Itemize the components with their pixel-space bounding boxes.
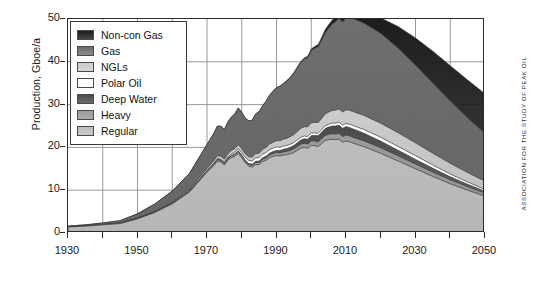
x-tick-mark [310, 232, 311, 238]
x-tick-mark [241, 232, 242, 238]
x-tick-mark [484, 232, 485, 238]
legend-item[interactable]: Heavy [77, 107, 180, 123]
y-tick-mark [60, 232, 65, 233]
x-tick-label: 1930 [44, 244, 90, 256]
y-tick-mark [60, 18, 65, 19]
legend-swatch-ngls [77, 62, 94, 72]
x-tick-mark [102, 232, 103, 238]
x-tick-mark [380, 232, 381, 238]
x-tick-mark [171, 232, 172, 238]
legend-label: Deep Water [101, 94, 157, 105]
y-tick-label: 40 [32, 55, 60, 66]
chart-legend: Non-con GasGasNGLsPolar OilDeep WaterHea… [70, 21, 187, 145]
x-tick-label: 1990 [253, 244, 299, 256]
x-tick-mark [345, 232, 346, 238]
legend-swatch-deep-water [77, 94, 94, 104]
credit-text: Association for the Study of Peak Oil [520, 39, 527, 229]
x-tick-label: 2030 [392, 244, 438, 256]
x-tick-label: 1970 [183, 244, 229, 256]
legend-label: Polar Oil [101, 78, 141, 89]
x-tick-label: 2050 [461, 244, 507, 256]
legend-label: Gas [101, 46, 120, 57]
x-tick-mark [276, 232, 277, 238]
legend-swatch-heavy [77, 110, 94, 120]
y-tick-mark [60, 146, 65, 147]
legend-label: NGLs [101, 62, 128, 73]
y-tick-label: 20 [32, 140, 60, 151]
legend-swatch-gas [77, 46, 94, 56]
x-tick-mark [449, 232, 450, 238]
x-tick-mark [415, 232, 416, 238]
x-tick-label: 2010 [322, 244, 368, 256]
y-tick-mark [60, 61, 65, 62]
legend-item[interactable]: Deep Water [77, 91, 180, 107]
legend-swatch-polar-oil [77, 78, 94, 88]
legend-item[interactable]: Gas [77, 43, 180, 59]
legend-item[interactable]: Regular [77, 123, 180, 139]
y-axis-ticks: 01020304050 [30, 0, 60, 281]
y-tick-label: 50 [32, 12, 60, 23]
legend-swatch-non-con-gas [77, 30, 94, 40]
x-tick-label: 1950 [114, 244, 160, 256]
legend-item[interactable]: NGLs [77, 59, 180, 75]
y-tick-mark [60, 189, 65, 190]
y-tick-label: 30 [32, 98, 60, 109]
x-tick-mark [137, 232, 138, 238]
y-tick-label: 10 [32, 183, 60, 194]
legend-label: Non-con Gas [101, 30, 163, 41]
chart-root: Production, Gboe/a 01020304050 193019501… [0, 0, 535, 281]
x-tick-mark [67, 232, 68, 238]
legend-item[interactable]: Non-con Gas [77, 27, 180, 43]
y-tick-mark [60, 104, 65, 105]
legend-label: Regular [101, 126, 138, 137]
x-tick-mark [206, 232, 207, 238]
legend-swatch-regular [77, 126, 94, 136]
legend-label: Heavy [101, 110, 131, 121]
y-tick-label: 0 [32, 226, 60, 237]
legend-item[interactable]: Polar Oil [77, 75, 180, 91]
